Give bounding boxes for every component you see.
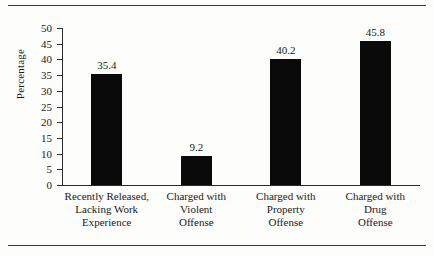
x-axis-category-label: Charged withDrugOffense [322, 190, 428, 229]
y-axis-tick-label: 50 [28, 23, 52, 34]
bar-value-label: 40.2 [256, 45, 316, 56]
y-axis-tick-label: 40 [28, 54, 52, 65]
y-axis-tick [57, 185, 62, 186]
y-axis-tick [57, 169, 62, 170]
bar-value-label: 9.2 [166, 142, 226, 153]
y-axis-tick-label: 45 [28, 39, 52, 50]
bar [91, 74, 122, 185]
y-axis-tick-label: 10 [28, 149, 52, 160]
y-axis-tick [57, 75, 62, 76]
y-axis-tick-label: 35 [28, 70, 52, 81]
figure-top-rule [8, 5, 426, 6]
y-axis-tick [57, 91, 62, 92]
category-label-line: Offense [322, 216, 428, 229]
y-axis-title: Percentage [14, 24, 26, 124]
y-axis-tick [57, 107, 62, 108]
y-axis-tick [57, 28, 62, 29]
category-label-line: Charged with [322, 190, 428, 203]
y-axis-tick-label: 0 [28, 180, 52, 191]
y-axis-tick-label: 25 [28, 102, 52, 113]
y-axis-tick [57, 44, 62, 45]
plot-area: 50454035302520151050 35.49.240.245.8 [62, 28, 420, 185]
y-axis-tick-label: 5 [28, 164, 52, 175]
y-axis-tick [57, 59, 62, 60]
x-axis-line [62, 185, 420, 186]
y-axis-tick [57, 154, 62, 155]
bar [181, 156, 212, 185]
bar-value-label: 45.8 [345, 27, 405, 38]
bar [360, 41, 391, 185]
category-label-line: Drug [322, 203, 428, 216]
y-axis-tick-label: 15 [28, 133, 52, 144]
y-axis-line [62, 28, 63, 185]
bar-value-label: 35.4 [77, 60, 137, 71]
figure-bottom-rule [8, 245, 426, 246]
bar-chart-figure: Percentage 50454035302520151050 35.49.24… [0, 0, 434, 256]
y-axis-tick [57, 138, 62, 139]
y-axis-tick-label: 30 [28, 86, 52, 97]
y-axis-tick-label: 20 [28, 117, 52, 128]
y-axis-tick [57, 122, 62, 123]
bar [270, 59, 301, 185]
